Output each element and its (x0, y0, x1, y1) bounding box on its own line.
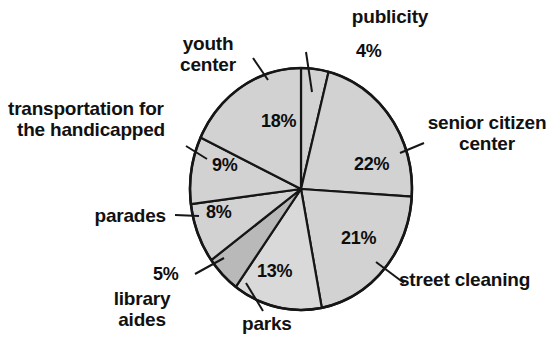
pie-chart-graphic (0, 0, 560, 355)
label-transportation-line1: transportation for (8, 98, 198, 119)
label-senior-citizen-center-line1: senior citizen (414, 112, 560, 133)
value-youth-center: 18% (261, 112, 296, 131)
value-street-cleaning: 21% (341, 229, 376, 248)
value-library-aides: 5% (153, 265, 178, 284)
label-senior-citizen-center-line2: center (414, 133, 560, 154)
pie-slice-group (190, 68, 412, 310)
value-parades: 8% (206, 203, 231, 222)
leader-line-parades (175, 215, 199, 216)
value-senior-citizen-center: 22% (354, 155, 389, 174)
label-street-cleaning: street cleaning (399, 269, 560, 290)
value-publicity: 4% (356, 42, 381, 61)
label-library-aides-line2: aides (88, 309, 196, 330)
label-library-aides-line1: library (88, 288, 196, 309)
label-parades: parades (38, 205, 166, 226)
label-youth-center-line2: center (148, 54, 268, 75)
label-youth-center-line1: youth (148, 33, 268, 54)
label-parks: parks (242, 313, 342, 334)
value-transportation: 9% (212, 156, 237, 175)
label-transportation-line2: the handicapped (17, 119, 207, 140)
pie-chart: publicity youth center transportation fo… (0, 0, 560, 355)
value-parks: 13% (257, 262, 292, 281)
label-publicity: publicity (320, 6, 460, 27)
